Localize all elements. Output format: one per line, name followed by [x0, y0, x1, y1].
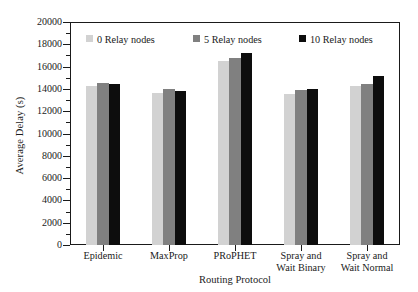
bars-layer — [70, 22, 400, 245]
legend-entry: 10 Relay nodes — [299, 29, 373, 42]
y-axis-tick-label: 6000 — [16, 173, 62, 183]
legend-label: 5 Relay nodes — [204, 34, 262, 45]
y-axis-tick — [63, 223, 70, 224]
y-axis-tick — [63, 89, 70, 90]
bar — [109, 84, 120, 245]
y-axis-tick — [63, 200, 70, 201]
bar — [361, 84, 372, 245]
bar — [163, 89, 174, 245]
legend-label: 10 Relay nodes — [310, 34, 373, 45]
bar — [350, 86, 361, 245]
y-axis-tick-label: 18000 — [16, 39, 62, 49]
bar — [241, 53, 252, 245]
bar — [152, 93, 163, 245]
y-axis-tick — [63, 44, 70, 45]
legend-swatch-icon — [86, 35, 93, 42]
x-axis-title: Routing Protocol — [70, 274, 400, 285]
bar — [218, 61, 229, 245]
chart-legend: 0 Relay nodes5 Relay nodes10 Relay nodes — [86, 29, 386, 42]
y-axis-tick — [63, 156, 70, 157]
y-axis-tick-label: 12000 — [16, 106, 62, 116]
y-axis-tick-label: 10000 — [16, 129, 62, 139]
y-axis-tick — [63, 245, 70, 246]
y-axis-tick — [63, 67, 70, 68]
y-axis-tick — [63, 178, 70, 179]
x-axis-tick-label-line: Wait Normal — [325, 262, 409, 274]
bar — [284, 94, 295, 245]
bar — [97, 83, 108, 245]
y-axis-tick-label: 8000 — [16, 151, 62, 161]
y-axis-tick-label: 20000 — [16, 17, 62, 27]
y-axis-tick — [63, 111, 70, 112]
legend-swatch-icon — [299, 35, 306, 42]
y-axis-tick-label: 16000 — [16, 62, 62, 72]
y-axis-tick-label: 14000 — [16, 84, 62, 94]
x-axis-tick-label: Spray andWait Normal — [325, 250, 409, 273]
y-axis-tick-label: 0 — [16, 240, 62, 250]
y-axis-tick — [63, 22, 70, 23]
bar-chart: Average Delay (s) 0200040006000800010000… — [0, 0, 418, 292]
y-axis-tick-label: 4000 — [16, 195, 62, 205]
bar — [307, 89, 318, 245]
bar — [373, 76, 384, 245]
y-axis-tick-label: 2000 — [16, 218, 62, 228]
bar — [229, 58, 240, 245]
x-axis-tick-label-line: Spray and — [325, 250, 409, 262]
legend-entry: 0 Relay nodes — [86, 29, 155, 42]
bar — [295, 90, 306, 245]
legend-entry: 5 Relay nodes — [193, 29, 262, 42]
legend-swatch-icon — [193, 35, 200, 42]
y-axis-tick — [63, 134, 70, 135]
bar — [175, 91, 186, 245]
bar — [86, 86, 97, 245]
legend-label: 0 Relay nodes — [97, 34, 155, 45]
